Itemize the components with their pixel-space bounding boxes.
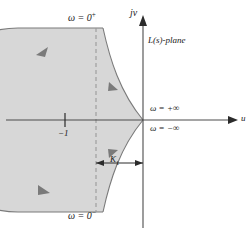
label-k1: K1	[110, 155, 119, 166]
label-u-axis: u	[241, 114, 246, 123]
label-omega-zero-minus: ω = 0−	[68, 210, 96, 221]
label-omega-zero-plus-text: ω = 0	[68, 12, 92, 23]
label-omega-zero-plus: ω = 0+	[68, 12, 96, 23]
horizontal-axis-arrowhead	[228, 116, 238, 124]
nyquist-plot-figure: ω = 0+ jv L(s)-plane ω = +∞ ω = −∞ u −1 …	[0, 0, 251, 232]
label-k1-subscript: 1	[116, 159, 119, 166]
label-ls-plane-text: L(s)-plane	[148, 35, 186, 45]
label-omega-zero-minus-text: ω = 0	[68, 210, 92, 221]
label-minus-one: −1	[58, 129, 69, 138]
label-omega-plus-infinity: ω = +∞	[150, 104, 179, 113]
plot-canvas	[0, 0, 251, 232]
label-omega-zero-minus-exponent: −	[92, 209, 96, 217]
label-v: v	[133, 7, 137, 18]
k1-arrowhead-right	[135, 160, 143, 166]
label-ls-plane: L(s)-plane	[148, 36, 186, 45]
label-omega-zero-plus-exponent: +	[92, 11, 96, 19]
vertical-axis-arrowhead	[139, 15, 147, 26]
label-jv-axis: jv	[130, 8, 137, 18]
label-omega-minus-infinity: ω = −∞	[150, 124, 179, 133]
